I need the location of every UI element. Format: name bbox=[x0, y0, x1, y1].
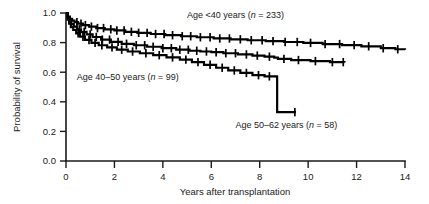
y-tick-marks bbox=[60, 13, 66, 161]
annotation-suffix: = 233) bbox=[256, 10, 284, 20]
annotation-prefix: Age 50–62 years ( bbox=[235, 120, 309, 130]
series-annotation-1: Age 40–50 years (n = 99) bbox=[77, 72, 179, 82]
annotation-suffix: = 58) bbox=[314, 120, 337, 130]
x-tick-label: 8 bbox=[257, 171, 262, 182]
x-tick-label: 14 bbox=[400, 171, 411, 182]
series-annotation-0: Age <40 years (n = 233) bbox=[187, 10, 284, 20]
x-axis-group: 02468101214 Years after transplantation bbox=[63, 161, 410, 197]
y-tick-label: 0.4 bbox=[43, 96, 56, 107]
x-tick-label: 12 bbox=[351, 171, 362, 182]
x-axis-title: Years after transplantation bbox=[180, 186, 291, 197]
series-annotation-2: Age 50–62 years (n = 58) bbox=[235, 120, 337, 130]
series-annotations-layer: Age <40 years (n = 233)Age 40–50 years (… bbox=[77, 10, 337, 130]
x-tick-label: 2 bbox=[112, 171, 117, 182]
survival-chart-figure: 0.00.20.40.60.81.0 Probability of surviv… bbox=[0, 0, 429, 204]
y-tick-labels: 0.00.20.40.60.81.0 bbox=[43, 7, 56, 166]
annotation-prefix: Age 40–50 years ( bbox=[77, 72, 151, 82]
y-tick-label: 1.0 bbox=[43, 7, 56, 18]
chart-canvas: 0.00.20.40.60.81.0 Probability of surviv… bbox=[0, 0, 429, 204]
y-tick-label: 0.8 bbox=[43, 37, 56, 48]
annotation-suffix: = 99) bbox=[155, 72, 178, 82]
y-axis-group: 0.00.20.40.60.81.0 Probability of surviv… bbox=[11, 7, 66, 166]
y-tick-label: 0.2 bbox=[43, 126, 56, 137]
x-tick-label: 0 bbox=[63, 171, 68, 182]
x-tick-label: 4 bbox=[160, 171, 165, 182]
x-tick-marks bbox=[66, 161, 405, 168]
x-tick-label: 6 bbox=[209, 171, 214, 182]
x-tick-label: 10 bbox=[303, 171, 314, 182]
y-tick-label: 0.0 bbox=[43, 155, 56, 166]
x-tick-labels: 02468101214 bbox=[63, 171, 410, 182]
annotation-prefix: Age <40 years ( bbox=[187, 10, 251, 20]
y-axis-title: Probability of survival bbox=[11, 42, 22, 132]
y-tick-label: 0.6 bbox=[43, 67, 56, 78]
